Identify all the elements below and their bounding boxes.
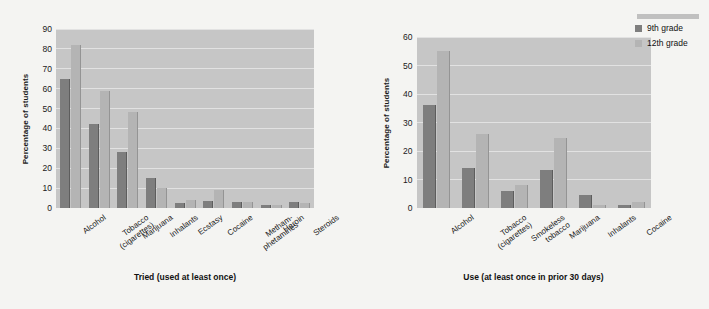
gridline bbox=[417, 94, 651, 95]
y-tick-label: 10 bbox=[30, 183, 52, 193]
bar bbox=[100, 91, 110, 208]
x-tick-label: Steroids bbox=[311, 213, 340, 238]
y-tick-label: 90 bbox=[30, 24, 52, 34]
legend-item-9th-grade: 9th grade bbox=[635, 23, 699, 33]
legend-swatch-9th-grade bbox=[635, 25, 642, 32]
x-tick-label: Marijuana bbox=[568, 213, 602, 241]
legend-label-9th-grade: 9th grade bbox=[647, 23, 683, 33]
bar bbox=[579, 195, 592, 208]
bar bbox=[300, 203, 310, 208]
x-axis-title-right: Use (at least once in prior 30 days) bbox=[417, 272, 651, 282]
chart-legend: 9th grade 12th grade bbox=[635, 14, 699, 53]
dual-bar-chart-figure: Percentage of students 01020304050607080… bbox=[0, 0, 709, 309]
x-tick-label: Cocaine bbox=[645, 213, 674, 238]
y-tick-label: 50 bbox=[391, 61, 413, 71]
y-tick-label: 20 bbox=[30, 163, 52, 173]
bar bbox=[186, 200, 196, 208]
bar bbox=[175, 203, 185, 208]
gridline bbox=[417, 179, 651, 180]
y-tick-label: 0 bbox=[30, 203, 52, 213]
bar bbox=[243, 202, 253, 208]
bar bbox=[593, 205, 606, 208]
bar bbox=[272, 205, 282, 208]
bar bbox=[476, 134, 489, 208]
bar bbox=[462, 168, 475, 208]
y-tick-label: 20 bbox=[391, 146, 413, 156]
bar bbox=[540, 170, 553, 208]
bar bbox=[232, 202, 242, 208]
legend-item-12th-grade: 12th grade bbox=[635, 38, 699, 48]
gridline bbox=[56, 29, 314, 30]
plot-area-right bbox=[417, 37, 651, 208]
legend-swatch-12th-grade bbox=[635, 40, 642, 47]
bar bbox=[203, 201, 213, 208]
gridline bbox=[56, 68, 314, 69]
y-tick-label: 80 bbox=[30, 44, 52, 54]
y-tick-label: 60 bbox=[30, 84, 52, 94]
y-tick-label: 40 bbox=[30, 123, 52, 133]
bar bbox=[501, 191, 514, 208]
y-tick-label: 40 bbox=[391, 89, 413, 99]
bar bbox=[261, 205, 271, 208]
x-tick-label: Cocaine bbox=[225, 213, 254, 238]
bar bbox=[554, 138, 567, 208]
x-tick-label: Ecstasy bbox=[196, 213, 224, 237]
gridline bbox=[56, 108, 314, 109]
bar bbox=[60, 79, 70, 208]
x-tick-label: Inhalants bbox=[606, 213, 638, 239]
legend-header-bar bbox=[637, 14, 699, 19]
y-tick-label: 70 bbox=[30, 64, 52, 74]
bar bbox=[437, 51, 450, 208]
bar bbox=[214, 190, 224, 208]
y-tick-label: 60 bbox=[391, 32, 413, 42]
legend-label-12th-grade: 12th grade bbox=[647, 38, 688, 48]
gridline bbox=[417, 151, 651, 152]
bar bbox=[71, 45, 81, 208]
bar bbox=[117, 152, 127, 208]
gridline bbox=[56, 88, 314, 89]
chart-panel-use: Percentage of students 0102030405060 Alc… bbox=[355, 0, 709, 309]
bar bbox=[632, 202, 645, 208]
y-tick-label: 30 bbox=[30, 143, 52, 153]
bar bbox=[89, 124, 99, 208]
bar bbox=[618, 205, 631, 208]
y-tick-label: 30 bbox=[391, 118, 413, 128]
x-axis-title-left: Tried (used at least once) bbox=[56, 272, 314, 282]
bar bbox=[515, 185, 528, 208]
bar bbox=[128, 112, 138, 208]
x-tick-label: Inhalants bbox=[169, 213, 201, 239]
x-tick-label: Tobacco(cigarettes) bbox=[491, 213, 534, 251]
chart-panel-tried: Percentage of students 01020304050607080… bbox=[0, 0, 355, 309]
bar bbox=[289, 202, 299, 208]
y-tick-label: 50 bbox=[30, 104, 52, 114]
gridline bbox=[417, 65, 651, 66]
y-axis-title-left: Percentage of students bbox=[21, 73, 30, 164]
bar bbox=[157, 188, 167, 208]
gridline bbox=[417, 37, 651, 38]
gridline bbox=[56, 48, 314, 49]
x-tick-label: Alcohol bbox=[81, 213, 108, 236]
y-tick-label: 10 bbox=[391, 175, 413, 185]
gridline bbox=[417, 122, 651, 123]
bar bbox=[423, 105, 436, 208]
y-axis-title-right: Percentage of students bbox=[382, 77, 391, 168]
x-tick-label: Alcohol bbox=[449, 213, 476, 236]
bar bbox=[146, 178, 156, 208]
x-tick-label: Smokelesstobacco bbox=[529, 213, 571, 251]
y-tick-label: 0 bbox=[391, 203, 413, 213]
